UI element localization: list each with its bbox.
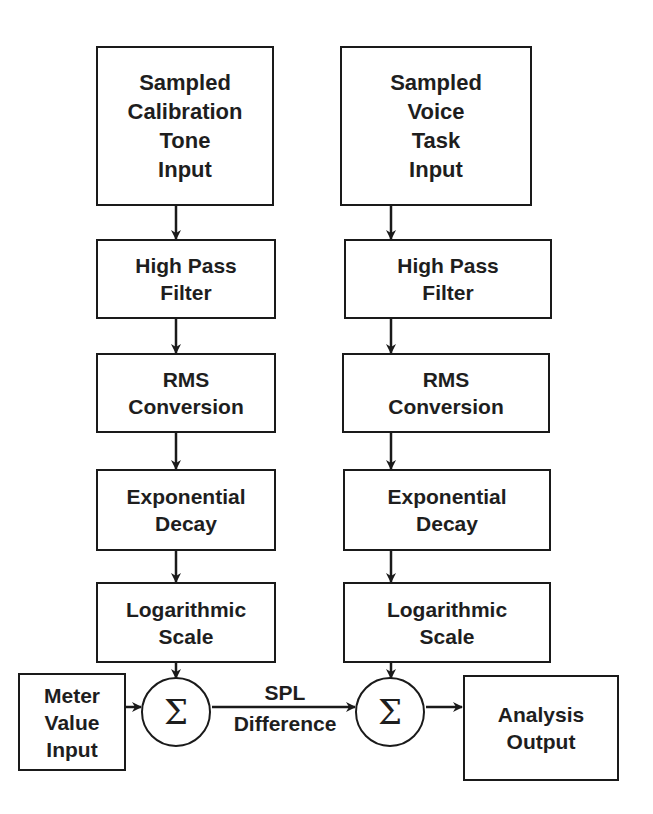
box-label: Sampled Voice Task Input (390, 68, 482, 184)
analysis-output-box: Analysis Output (463, 675, 619, 781)
right-summation-node: Σ (355, 677, 425, 747)
box-label: Exponential Decay (126, 483, 245, 537)
right-logarithmic-scale-box: Logarithmic Scale (343, 582, 551, 663)
calibration-tone-input-box: Sampled Calibration Tone Input (96, 46, 274, 206)
spl-label: SPL (230, 681, 340, 705)
left-rms-conversion-box: RMS Conversion (96, 353, 276, 433)
voice-task-input-box: Sampled Voice Task Input (340, 46, 532, 206)
left-exponential-decay-box: Exponential Decay (96, 469, 276, 551)
box-label: RMS Conversion (388, 366, 504, 420)
box-label: Sampled Calibration Tone Input (128, 68, 243, 184)
box-label: High Pass Filter (135, 252, 237, 306)
box-label: Analysis Output (498, 701, 584, 755)
meter-value-input-box: Meter Value Input (18, 673, 126, 771)
box-label: Meter Value Input (44, 682, 100, 763)
box-label: Logarithmic Scale (126, 596, 246, 650)
left-summation-node: Σ (141, 677, 211, 747)
box-label: High Pass Filter (397, 252, 499, 306)
box-label: Logarithmic Scale (387, 596, 507, 650)
sigma-symbol: Σ (378, 692, 402, 732)
box-label: RMS Conversion (128, 366, 244, 420)
left-high-pass-filter-box: High Pass Filter (96, 239, 276, 319)
right-rms-conversion-box: RMS Conversion (342, 353, 550, 433)
right-high-pass-filter-box: High Pass Filter (344, 239, 552, 319)
right-exponential-decay-box: Exponential Decay (343, 469, 551, 551)
difference-label: Difference (215, 712, 355, 736)
sigma-symbol: Σ (164, 692, 188, 732)
left-logarithmic-scale-box: Logarithmic Scale (96, 582, 276, 663)
box-label: Exponential Decay (387, 483, 506, 537)
